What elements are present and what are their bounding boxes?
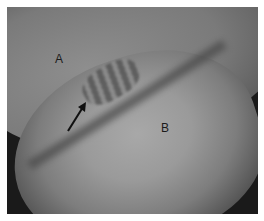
medical-image	[7, 7, 258, 214]
label-b: B	[161, 121, 169, 135]
arrow-icon	[66, 101, 88, 133]
label-a: A	[55, 52, 63, 66]
